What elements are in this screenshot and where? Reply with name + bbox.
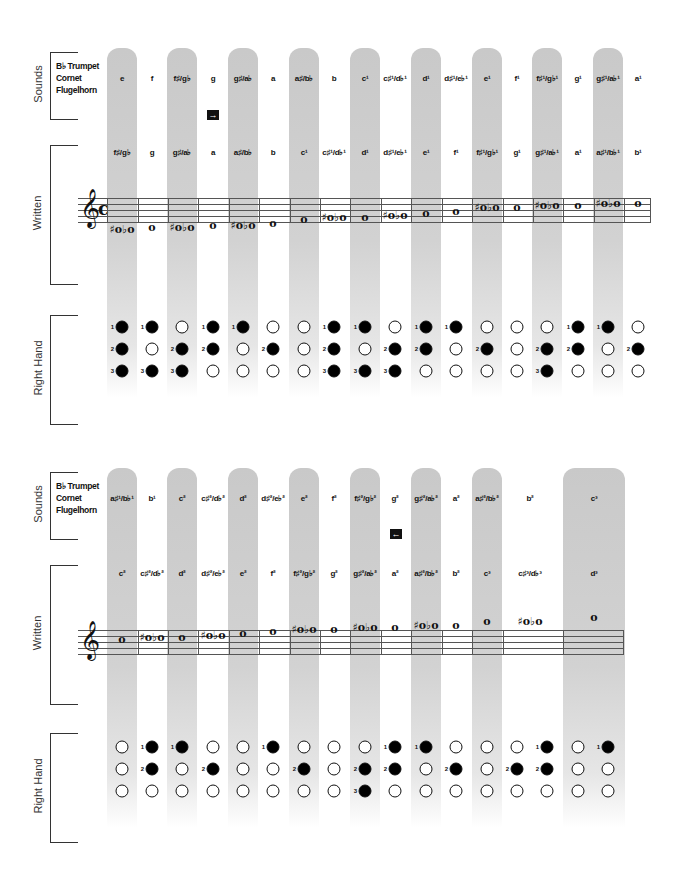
- valve-3-open-icon: [176, 785, 189, 798]
- valve-1-open-icon: [572, 741, 585, 754]
- notehead: o: [590, 612, 597, 623]
- valve-number: 3: [354, 788, 357, 794]
- notehead: ♯o♭o: [139, 632, 164, 643]
- valve-1-open-icon: [359, 741, 372, 754]
- valve-2-open-icon: [328, 763, 341, 776]
- sounds-note-label: a♯¹/b♭¹: [110, 494, 134, 503]
- barline: [198, 630, 199, 655]
- valve-3-open-icon: [116, 785, 129, 798]
- barline: [503, 630, 504, 655]
- valve-3-open-icon: [450, 785, 463, 798]
- valve-2-pressed-icon: [146, 763, 159, 776]
- valve-2-open-icon: [176, 763, 189, 776]
- sounds-note-label: b²: [526, 494, 533, 503]
- barline: [623, 630, 624, 655]
- written-note-label: c♯³/d♭³: [518, 569, 542, 578]
- notehead: o: [178, 632, 185, 643]
- valve-2-pressed-icon: [389, 763, 402, 776]
- valve-1-pressed-icon: [176, 741, 189, 754]
- notehead: o: [330, 624, 337, 635]
- notehead: ♯o♭o: [200, 630, 225, 641]
- valve-2-pressed-icon: [541, 763, 554, 776]
- valve-number: 1: [597, 744, 600, 750]
- instrument-flugelhorn: Flugelhorn: [56, 504, 99, 516]
- sounds-note-label: b¹: [148, 494, 155, 503]
- notehead: o: [391, 622, 398, 633]
- valve-3-open-icon: [298, 785, 311, 798]
- written-note-label: e²: [240, 569, 247, 578]
- written-note-label: d♯²/e♭²: [201, 569, 225, 578]
- treble-clef-icon-2: 𝄞: [80, 622, 100, 656]
- valve-3-open-icon: [572, 785, 585, 798]
- valve-1-open-icon: [481, 741, 494, 754]
- right-hand-bracket-2: [50, 733, 78, 843]
- sounds-note-label: g♯²/a♭²: [414, 494, 438, 503]
- notehead: ♯o♭o: [413, 620, 438, 631]
- sounds-label-2: Sounds: [32, 484, 44, 524]
- sounds-note-label: c²: [179, 494, 186, 503]
- valve-number: 1: [384, 744, 387, 750]
- valve-1-open-icon: [207, 741, 220, 754]
- valve-3-open-icon: [146, 785, 159, 798]
- written-note-label: c♯²/d♭²: [140, 569, 164, 578]
- valve-3-open-icon: [267, 785, 280, 798]
- valve-1-open-icon: [116, 741, 129, 754]
- valve-1-open-icon: [511, 741, 524, 754]
- written-note-label: a²: [392, 569, 399, 578]
- valve-2-open-icon: [116, 763, 129, 776]
- sounds-note-label: e²: [301, 494, 308, 503]
- valve-number: 2: [506, 766, 509, 772]
- notehead: ♯o♭o: [291, 624, 316, 635]
- valve-number: 2: [384, 766, 387, 772]
- valve-2-open-icon: [481, 763, 494, 776]
- barline: [350, 630, 351, 655]
- valve-number: 2: [536, 766, 539, 772]
- valve-1-pressed-icon: [389, 741, 402, 754]
- valve-2-open-icon: [267, 763, 280, 776]
- instrument-trumpet: B♭ Trumpet: [56, 480, 99, 492]
- valve-1-pressed-icon: [420, 741, 433, 754]
- valve-3-pressed-icon: [359, 785, 372, 798]
- barline: [563, 630, 564, 655]
- valve-number: 2: [202, 766, 205, 772]
- written-note-label: b²: [452, 569, 459, 578]
- written-note-label: d³: [590, 569, 597, 578]
- valve-2-pressed-icon: [511, 763, 524, 776]
- barline: [442, 630, 443, 655]
- valve-number: 1: [262, 744, 265, 750]
- sounds-note-label: d²: [239, 494, 246, 503]
- valve-number: 1: [171, 744, 174, 750]
- notehead: o: [483, 616, 490, 627]
- valve-1-open-icon: [298, 741, 311, 754]
- sounds-note-label: a♯²/b♭²: [475, 494, 499, 503]
- valve-2-open-icon: [572, 763, 585, 776]
- sounds-note-label: f²: [332, 494, 337, 503]
- barline: [320, 630, 321, 655]
- valve-number: 2: [354, 766, 357, 772]
- valve-3-open-icon: [511, 785, 524, 798]
- valve-3-open-icon: [481, 785, 494, 798]
- valve-2-pressed-icon: [298, 763, 311, 776]
- valve-2-open-icon: [602, 763, 615, 776]
- valve-number: 1: [536, 744, 539, 750]
- valve-number: 1: [141, 744, 144, 750]
- valve-3-open-icon: [328, 785, 341, 798]
- valve-1-open-icon: [450, 741, 463, 754]
- instrument-cornet: Cornet: [56, 492, 99, 504]
- notehead: o: [452, 620, 459, 631]
- written-note-label: g♯²/a♭²: [353, 569, 377, 578]
- valve-3-open-icon: [237, 785, 250, 798]
- sounds-note-label: c³: [591, 494, 598, 503]
- valve-number: 1: [415, 744, 418, 750]
- written-note-label: c²: [119, 569, 126, 578]
- notehead: ♯o♭o: [517, 616, 542, 627]
- barline: [229, 630, 230, 655]
- valve-2-pressed-icon: [207, 763, 220, 776]
- written-label-2: Written: [31, 610, 43, 656]
- valve-1-pressed-icon: [541, 741, 554, 754]
- valve-1-pressed-icon: [602, 741, 615, 754]
- valve-3-open-icon: [541, 785, 554, 798]
- valve-1-pressed-icon: [267, 741, 280, 754]
- valve-3-open-icon: [420, 785, 433, 798]
- written-note-label: c³: [484, 569, 491, 578]
